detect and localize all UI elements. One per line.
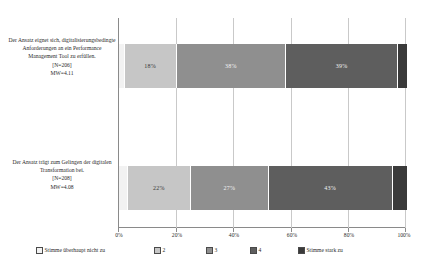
category-label-0: Der Ansatz eignet sich, digitalisierungs… [8, 36, 116, 77]
legend-item-3: 4 [250, 247, 298, 254]
bar-row: 22% 27% 43% [119, 166, 407, 210]
bar-row: 18% 38% 39% [119, 44, 407, 88]
bar-segment-value: 22% [153, 185, 165, 191]
legend-swatch-icon [154, 247, 161, 254]
xtick-label-40: 40% [229, 232, 239, 238]
legend-swatch-icon [298, 247, 305, 254]
bar-segment: 43% [269, 166, 393, 210]
bar-segment-value: 39% [336, 63, 348, 69]
xtick-label-60: 60% [287, 232, 297, 238]
bar-segment: 39% [286, 44, 398, 88]
legend-label: 4 [259, 247, 262, 254]
category-label-0-n: [N=206] [8, 61, 116, 69]
bar-segment-value: 43% [324, 185, 336, 191]
bar-segment: 18% [125, 44, 177, 88]
xtick-label-100: 100% [397, 232, 410, 238]
legend-item-2: 3 [206, 247, 250, 254]
bar-segment [398, 44, 407, 88]
legend-label: Stimme stark zu [307, 247, 343, 254]
category-label-0-text: Der Ansatz eignet sich, digitalisierungs… [8, 37, 115, 59]
x-axis-line [118, 227, 406, 228]
bar-segment: 38% [177, 44, 286, 88]
legend-label: Stimme überhaupt nicht zu [45, 247, 105, 254]
bar-segment: 22% [128, 166, 191, 210]
bar-segment-value: 18% [144, 63, 156, 69]
bar-segment-value: 27% [224, 185, 236, 191]
legend-label: 2 [163, 247, 166, 254]
legend-swatch-icon [250, 247, 257, 254]
bar-segment [393, 166, 407, 210]
category-label-1: Der Ansatz trägt zum Gelingen der digita… [8, 158, 116, 191]
bar-segment: 27% [191, 166, 269, 210]
category-label-1-text: Der Ansatz trägt zum Gelingen der digita… [12, 159, 111, 173]
category-label-0-mean: MW=4.11 [8, 69, 116, 77]
legend-item-1: 2 [154, 247, 206, 254]
xtick-label-0: 0% [115, 232, 122, 238]
category-label-1-mean: MW=4.08 [8, 183, 116, 191]
xtick-label-80: 80% [344, 232, 354, 238]
plot-area: 18% 38% 39% 22% 27% 43% [118, 18, 406, 228]
legend-swatch-icon [206, 247, 213, 254]
legend-item-4: Stimme stark zu [298, 247, 343, 254]
chart-legend: Stimme überhaupt nicht zu 2 3 4 Stimme s… [36, 247, 386, 254]
stacked-bar-chart: Der Ansatz eignet sich, digitalisierungs… [0, 0, 422, 269]
bar-segment-value: 38% [225, 63, 237, 69]
category-label-1-n: [N=208] [8, 174, 116, 182]
legend-item-0: Stimme überhaupt nicht zu [36, 247, 154, 254]
xtick-label-20: 20% [172, 232, 182, 238]
legend-swatch-icon [36, 247, 43, 254]
legend-label: 3 [215, 247, 218, 254]
bar-segment [119, 166, 128, 210]
